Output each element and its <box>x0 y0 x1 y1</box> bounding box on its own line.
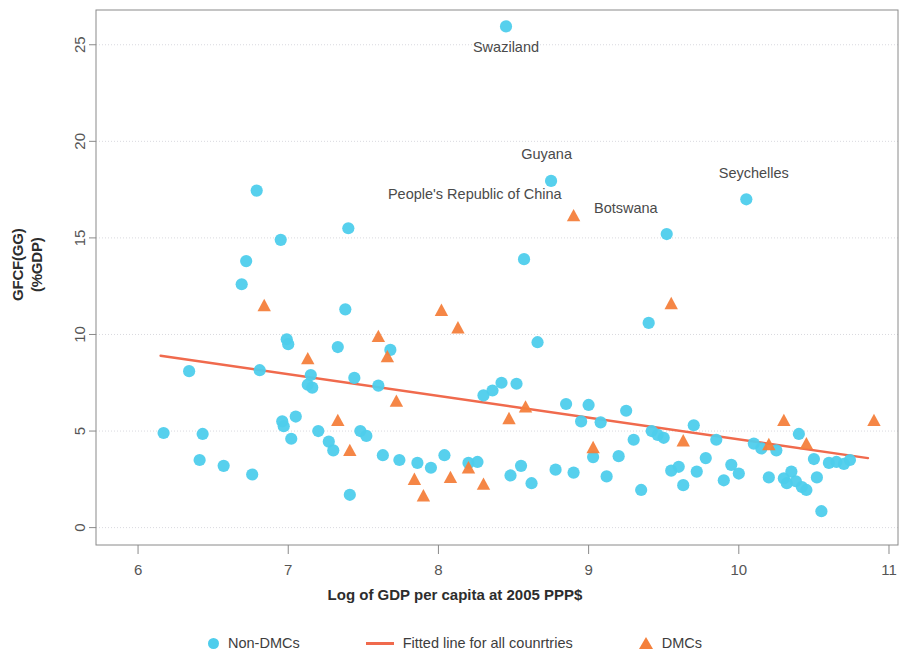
svg-text:15: 15 <box>72 230 89 247</box>
legend-label-dmcs: DMCs <box>662 635 702 651</box>
y-axis-label-line1: GFCF(GG) <box>9 185 28 345</box>
circle-marker-icon <box>208 638 219 649</box>
chart-legend: Non-DMCs Fitted line for all counrtries … <box>0 628 910 658</box>
svg-text:Seychelles: Seychelles <box>719 165 789 181</box>
svg-text:5: 5 <box>72 427 89 435</box>
svg-text:20: 20 <box>72 133 89 150</box>
svg-text:25: 25 <box>72 36 89 53</box>
svg-text:People's Republic of China: People's Republic of China <box>388 186 563 202</box>
legend-item-dmcs: DMCs <box>639 635 702 651</box>
svg-text:6: 6 <box>134 561 142 578</box>
svg-text:Guyana: Guyana <box>521 146 573 162</box>
svg-text:9: 9 <box>584 561 592 578</box>
legend-item-fitted-line: Fitted line for all counrtries <box>366 635 573 651</box>
svg-text:8: 8 <box>434 561 442 578</box>
legend-label-non-dmcs: Non-DMCs <box>228 635 300 651</box>
svg-text:7: 7 <box>284 561 292 578</box>
plot-frame <box>96 10 898 545</box>
x-axis-label: Log of GDP per capita at 2005 PPP$ <box>0 586 910 603</box>
svg-text:Swaziland: Swaziland <box>473 39 539 55</box>
svg-text:Botswana: Botswana <box>594 200 659 216</box>
svg-text:0: 0 <box>72 523 89 531</box>
y-axis-label-line2: (%GDP) <box>28 185 47 345</box>
legend-label-fitted-line: Fitted line for all counrtries <box>403 635 573 651</box>
line-marker-icon <box>366 642 394 645</box>
y-axis-label: GFCF(GG) (%GDP) <box>9 185 47 345</box>
annotations: SwazilandGuyanaPeople's Republic of Chin… <box>388 39 789 215</box>
data-points <box>157 20 880 517</box>
svg-text:10: 10 <box>72 326 89 343</box>
svg-text:11: 11 <box>881 561 897 578</box>
svg-text:10: 10 <box>730 561 747 578</box>
chart-figure: 051015202567891011 SwazilandGuyanaPeople… <box>0 0 910 662</box>
scatter-plot-svg: 051015202567891011 SwazilandGuyanaPeople… <box>0 0 910 662</box>
legend-item-non-dmcs: Non-DMCs <box>208 635 300 651</box>
axis-ticks: 051015202567891011 <box>72 36 897 578</box>
triangle-marker-icon <box>639 637 653 649</box>
